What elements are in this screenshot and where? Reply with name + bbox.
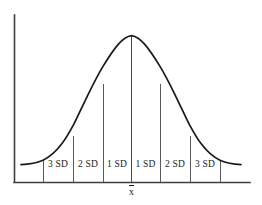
band-label-plus3: 3 SD xyxy=(190,159,220,170)
bell-curve-diagram xyxy=(0,0,262,205)
band-label-minus2: 2 SD xyxy=(73,159,103,170)
x-bar-glyph: x xyxy=(129,186,135,197)
band-label-plus2: 2 SD xyxy=(160,159,190,170)
x-bar-mean-label: x xyxy=(116,186,147,197)
bell-curve-figure: 3 SD 2 SD 1 SD 1 SD 2 SD 3 SD x xyxy=(0,0,262,205)
band-label-minus3: 3 SD xyxy=(43,159,73,170)
band-label-minus1: 1 SD xyxy=(103,159,131,170)
band-label-plus1: 1 SD xyxy=(131,159,160,170)
